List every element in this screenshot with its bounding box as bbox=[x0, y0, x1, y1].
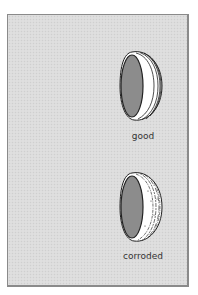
label-corroded: corroded bbox=[118, 251, 168, 261]
label-good: good bbox=[126, 131, 160, 141]
ring-corroded-icon bbox=[118, 171, 164, 243]
corroded-ring-illustration bbox=[118, 171, 164, 243]
good-ring-illustration bbox=[118, 50, 164, 122]
ring-good-icon bbox=[118, 50, 164, 122]
